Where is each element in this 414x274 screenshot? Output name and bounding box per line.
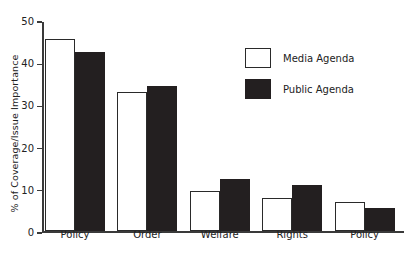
y-tick-mark	[37, 148, 42, 149]
y-tick-label: 10	[8, 186, 34, 196]
filled-square-swatch	[245, 79, 271, 99]
bar-group	[190, 20, 250, 231]
legend-item: Public Agenda	[245, 79, 354, 99]
bar-media-agenda	[45, 39, 75, 231]
bar-public-agenda	[147, 86, 177, 232]
bar-group	[117, 20, 177, 231]
legend-label: Media Agenda	[283, 53, 354, 64]
bar-public-agenda	[75, 52, 105, 231]
y-axis-line	[42, 22, 44, 233]
y-tick-mark	[37, 190, 42, 191]
legend-label: Public Agenda	[283, 84, 354, 95]
bar-media-agenda	[262, 198, 292, 232]
bar-media-agenda	[117, 92, 147, 231]
y-tick-label: 50	[8, 17, 34, 27]
y-tick-label: 30	[8, 101, 34, 111]
bar-media-agenda	[335, 202, 365, 232]
y-tick-mark	[37, 21, 42, 22]
bar-public-agenda	[365, 208, 395, 231]
bar-media-agenda	[190, 191, 220, 231]
bar-public-agenda	[292, 185, 322, 231]
bar-chart: % of Coverage/Issue Importance 010203040…	[0, 0, 414, 274]
y-tick-label: 40	[8, 59, 34, 69]
open-square-swatch	[245, 48, 271, 68]
bar-public-agenda	[220, 179, 250, 232]
y-tick-label: 20	[8, 144, 34, 154]
legend-item: Media Agenda	[245, 48, 354, 68]
bar-group	[45, 20, 105, 231]
y-tick-mark	[37, 64, 42, 65]
y-tick-mark	[37, 106, 42, 107]
chart-legend: Media AgendaPublic Agenda	[245, 48, 354, 110]
